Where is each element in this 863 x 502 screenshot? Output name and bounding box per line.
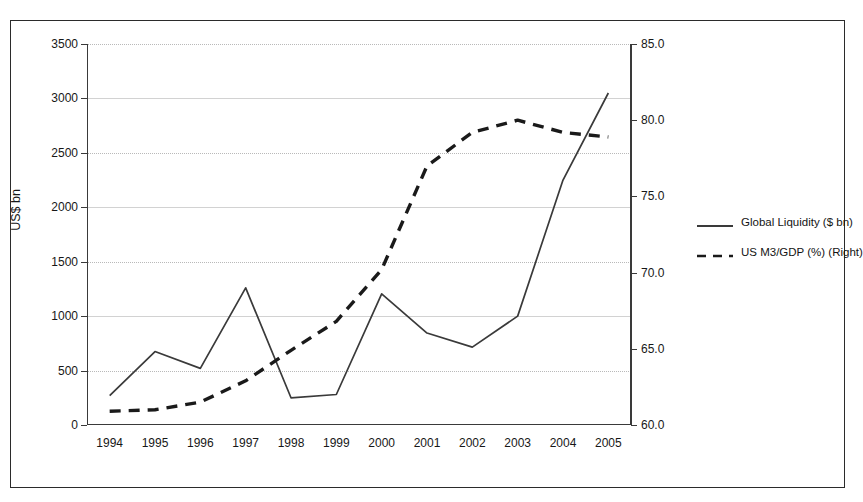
legend-label-global-liquidity: Global Liquidity ($ bn)	[741, 216, 853, 228]
y-axis-left-tick-label: 3500	[51, 37, 78, 51]
series-layer	[87, 44, 631, 425]
x-axis-tick-label: 1995	[142, 436, 169, 450]
y-axis-right-tickmark	[631, 425, 637, 426]
y-axis-left-tick-label: 2500	[51, 146, 78, 160]
y-axis-left-tick-label: 2000	[51, 200, 78, 214]
y-axis-right-tickmark	[631, 196, 637, 197]
y-axis-left-tickmark	[81, 371, 87, 372]
x-axis-tick-label: 2001	[414, 436, 441, 450]
y-axis-left-ticks: 0500100015002000250030003500	[0, 0, 78, 502]
legend-swatch-solid-icon	[697, 217, 733, 227]
x-axis-tick-label: 2004	[550, 436, 577, 450]
x-axis-tick-label: 1999	[323, 436, 350, 450]
x-axis-tick-label: 2000	[368, 436, 395, 450]
y-axis-right-line	[631, 44, 632, 425]
x-axis-tick-label: 1996	[187, 436, 214, 450]
x-axis-tick-label: 1997	[232, 436, 259, 450]
y-axis-right-tickmark	[631, 349, 637, 350]
series-line-global-liquidity-bn	[110, 93, 609, 398]
y-axis-right-tick-label: 70.0	[641, 266, 664, 280]
y-axis-right-tick-label: 75.0	[641, 189, 664, 203]
y-axis-left-tick-label: 1000	[51, 309, 78, 323]
y-axis-right-tick-label: 65.0	[641, 342, 664, 356]
y-axis-left-tickmark	[81, 207, 87, 208]
y-axis-left-tick-label: 3000	[51, 91, 78, 105]
chart-legend: Global Liquidity ($ bn) US M3/GDP (%) (R…	[697, 216, 847, 276]
y-axis-left-tickmark	[81, 262, 87, 263]
y-axis-left-tickmark	[81, 425, 87, 426]
x-axis-tick-label: 1994	[96, 436, 123, 450]
x-axis-tick-label: 2002	[459, 436, 486, 450]
y-axis-right-tickmark	[631, 273, 637, 274]
y-axis-right-tick-label: 60.0	[641, 418, 664, 432]
legend-item-global-liquidity: Global Liquidity ($ bn)	[697, 216, 847, 228]
y-axis-left-tickmark	[81, 98, 87, 99]
y-axis-left-tickmark	[81, 316, 87, 317]
y-axis-left-tick-label: 1500	[51, 255, 78, 269]
y-axis-right-tickmark	[631, 120, 637, 121]
y-axis-right-tick-label: 80.0	[641, 113, 664, 127]
legend-item-us-m3-gdp: US M3/GDP (%) (Right)	[697, 246, 847, 258]
y-axis-left-tickmark	[81, 153, 87, 154]
y-axis-left-tick-label: 0	[71, 418, 78, 432]
y-axis-left-tick-label: 500	[58, 364, 78, 378]
legend-swatch-dashed-icon	[697, 247, 733, 257]
x-axis-tick-label: 2003	[504, 436, 531, 450]
series-line-us-m3-gdp-right	[110, 120, 609, 411]
plot-area	[87, 44, 631, 425]
y-axis-right-tick-label: 85.0	[641, 37, 664, 51]
y-axis-left-tickmark	[81, 44, 87, 45]
legend-label-us-m3-gdp: US M3/GDP (%) (Right)	[741, 246, 863, 258]
x-axis-tick-label: 2005	[595, 436, 622, 450]
y-axis-right-tickmark	[631, 44, 637, 45]
x-axis-tick-label: 1998	[278, 436, 305, 450]
